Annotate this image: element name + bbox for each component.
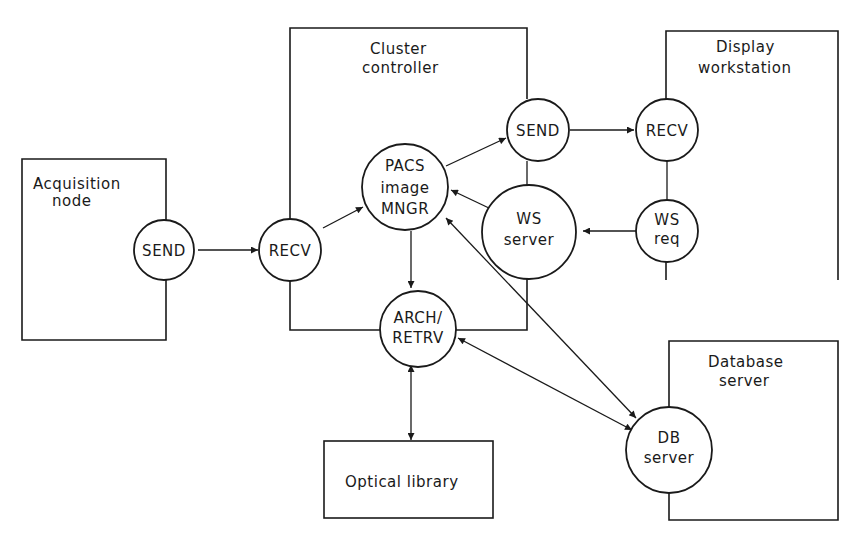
svg-text:RETRV: RETRV — [392, 329, 444, 347]
optical-library-box: Optical library — [324, 441, 493, 518]
node-cc-recv: RECV — [259, 219, 321, 281]
database-server-label-1: Database — [708, 353, 784, 371]
node-dw-recv: RECV — [636, 99, 698, 161]
svg-text:ARCH/: ARCH/ — [393, 309, 443, 327]
node-arch-retrv: ARCH/ RETRV — [380, 291, 456, 367]
cluster-controller-label-2: controller — [362, 59, 439, 77]
edge-recv-to-pacs — [323, 207, 363, 228]
pacs-architecture-diagram: Acquisition node Cluster controller Disp… — [0, 0, 858, 539]
edge-arch-db-bidirectional — [458, 338, 632, 430]
display-workstation-label-1: Display — [716, 38, 775, 56]
svg-text:req: req — [654, 230, 680, 248]
svg-text:server: server — [504, 231, 555, 249]
acquisition-node-label-2: node — [52, 192, 91, 210]
node-db-server: DB server — [626, 407, 712, 493]
edge-ws-server-to-pacs — [451, 190, 491, 209]
svg-text:MNGR: MNGR — [381, 200, 429, 218]
svg-text:RECV: RECV — [646, 122, 689, 140]
svg-text:PACS: PACS — [385, 157, 425, 175]
database-server-label-2: server — [719, 372, 770, 390]
node-ws-server: WS server — [482, 185, 576, 279]
svg-text:server: server — [644, 449, 695, 467]
svg-text:WS: WS — [516, 210, 541, 228]
node-acq-send: SEND — [134, 220, 194, 280]
optical-library-label: Optical library — [345, 473, 459, 491]
node-pacs-image-mngr: PACS image MNGR — [362, 144, 448, 230]
edge-pacs-to-send — [446, 138, 506, 166]
node-ws-req: WS req — [636, 200, 698, 262]
svg-text:image: image — [380, 179, 429, 197]
acquisition-node-label-1: Acquisition — [33, 175, 121, 193]
display-workstation-label-2: workstation — [698, 59, 791, 77]
svg-text:DB: DB — [658, 429, 681, 447]
cluster-controller-label-1: Cluster — [370, 40, 427, 58]
svg-text:SEND: SEND — [142, 242, 186, 260]
svg-text:RECV: RECV — [269, 242, 312, 260]
svg-text:WS: WS — [654, 211, 679, 229]
svg-text:SEND: SEND — [516, 122, 560, 140]
node-cc-send: SEND — [507, 99, 569, 161]
